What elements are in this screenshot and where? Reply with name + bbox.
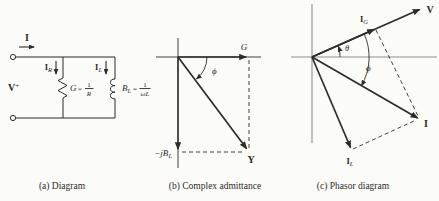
neg-jbl-label: −jBL	[154, 148, 172, 159]
ig-phasor-arrow	[312, 30, 374, 58]
voltage-label: V+	[8, 82, 19, 94]
caption-c: (c) Phasor diagram	[317, 181, 390, 192]
inductor-branch-icon	[111, 57, 116, 118]
svg-text:R: R	[86, 90, 92, 98]
v-label: V	[426, 4, 434, 15]
panel-a-circuit-diagram: I IR IL V+ G = 1 R BL = 1 ωL	[8, 32, 151, 121]
panel-b-complex-admittance: G −jBL Y ϕ	[154, 38, 261, 168]
terminal-top-icon	[10, 54, 15, 59]
ig-label: IG	[360, 14, 368, 25]
current-i-label: I	[25, 32, 29, 43]
resistor-branch-icon	[58, 57, 67, 118]
caption-b: (b) Complex admittance	[169, 181, 261, 192]
phi-angle-arc-icon	[362, 34, 370, 86]
i-label: I	[424, 118, 428, 129]
g-label: G	[241, 42, 248, 52]
svg-text:G: G	[70, 83, 77, 93]
y-label: Y	[247, 154, 255, 165]
panel-c-phasor-diagram: V IG I IL θ ϕ	[291, 4, 437, 167]
svg-text:ωL: ωL	[141, 90, 150, 98]
captions: (a) Diagram (b) Complex admittance (c) P…	[39, 181, 390, 192]
current-ir-label: IR	[45, 62, 52, 73]
figure-page: I IR IL V+ G = 1 R BL = 1 ωL	[0, 0, 439, 201]
svg-text:1: 1	[143, 81, 147, 89]
parallelogram-dashed-from-il	[353, 120, 416, 149]
il-label: IL	[347, 156, 354, 167]
theta-label: θ	[345, 43, 349, 53]
il-phasor-arrow	[312, 57, 351, 148]
figure-canvas: I IR IL V+ G = 1 R BL = 1 ωL	[0, 0, 439, 201]
phi-label: ϕ	[212, 66, 217, 76]
susceptance-label: BL = 1 ωL	[122, 81, 151, 98]
svg-text:1: 1	[87, 81, 91, 89]
terminal-bottom-icon	[10, 115, 15, 120]
svg-text:=: =	[133, 85, 137, 93]
conductance-label: G = 1 R	[70, 81, 94, 98]
svg-text:=: =	[78, 85, 82, 93]
caption-a: (a) Diagram	[39, 181, 86, 192]
parallelogram-dashed-from-ig	[376, 30, 418, 116]
i-phasor-arrow	[312, 57, 418, 118]
theta-angle-arc-icon	[339, 47, 341, 58]
current-il-label: IL	[95, 62, 102, 73]
phi-angle-arc-icon	[197, 57, 208, 79]
phi-label: ϕ	[366, 63, 371, 73]
svg-text:BL: BL	[122, 83, 132, 94]
